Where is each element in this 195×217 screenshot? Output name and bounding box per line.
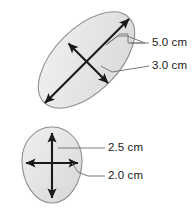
label-vertical-axis: 2.5 cm	[108, 141, 143, 153]
top-shape-group: 5.0 cm 3.0 cm	[21, 0, 187, 125]
bottom-shape-group: 2.5 cm 2.0 cm	[22, 127, 143, 203]
label-horizontal-axis: 2.0 cm	[108, 169, 143, 181]
label-minor-axis: 3.0 cm	[152, 59, 187, 71]
diagram-canvas: 5.0 cm 3.0 cm 2.5 cm 2.0 cm	[0, 0, 195, 217]
label-major-axis: 5.0 cm	[152, 36, 187, 48]
shape-dimensions-diagram: 5.0 cm 3.0 cm 2.5 cm 2.0 cm	[0, 0, 195, 217]
